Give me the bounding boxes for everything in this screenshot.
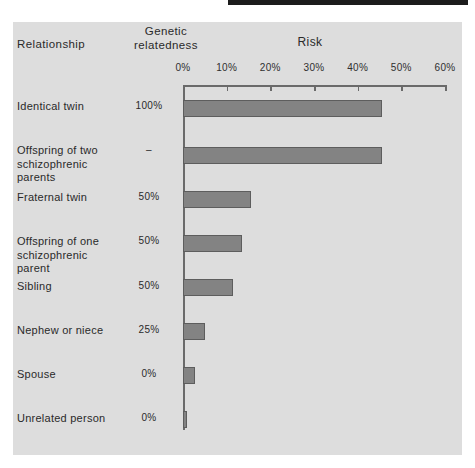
row-label-line: Offspring of two — [17, 144, 117, 158]
x-axis-tick-label: 50% — [381, 62, 421, 73]
row-value-genetic-relatedness: 50% — [118, 191, 180, 202]
x-axis-tick-label: 30% — [294, 62, 334, 73]
row-label-relationship: Identical twin — [17, 100, 117, 114]
chart-row: Nephew or niece25% — [0, 324, 449, 368]
x-axis-tick-label: 0% — [163, 62, 203, 73]
genetic-header-line-1: Genetic — [118, 24, 214, 38]
x-axis-tick — [445, 85, 447, 91]
column-header-relationship: Relationship — [17, 38, 85, 50]
row-label-line: Offspring of one — [17, 235, 117, 249]
row-value-genetic-relatedness: 100% — [118, 100, 180, 111]
x-axis-tick-label: 40% — [338, 62, 378, 73]
row-label-relationship: Sibling — [17, 280, 117, 294]
row-label-line: Identical twin — [17, 100, 117, 114]
row-label-line: Sibling — [17, 280, 117, 294]
row-label-line: Spouse — [17, 368, 117, 382]
row-value-genetic-relatedness: 0% — [118, 368, 180, 379]
column-header-genetic-relatedness: Genetic relatedness — [118, 24, 214, 52]
x-axis-tick — [358, 85, 360, 91]
genetic-header-line-2: relatedness — [118, 38, 214, 52]
row-label-relationship: Nephew or niece — [17, 324, 117, 338]
x-axis-tick — [227, 85, 229, 91]
row-label-line: schizophrenic parent — [17, 249, 117, 276]
bar-risk — [183, 147, 382, 164]
bar-risk — [183, 191, 251, 208]
x-axis-tick-label: 10% — [207, 62, 247, 73]
row-value-genetic-relatedness: 25% — [118, 324, 180, 335]
top-black-rule — [228, 0, 468, 5]
bar-risk — [183, 279, 233, 296]
x-axis-tick — [401, 85, 403, 91]
row-label-relationship: Unrelated person — [17, 412, 117, 426]
bar-risk — [183, 367, 195, 384]
row-label-line: Fraternal twin — [17, 191, 117, 205]
x-axis-tick-label: 20% — [250, 62, 290, 73]
column-header-risk: Risk — [278, 35, 342, 49]
row-label-relationship: Spouse — [17, 368, 117, 382]
chart-row: Spouse0% — [0, 368, 449, 412]
bar-risk — [183, 411, 187, 428]
x-axis-tick — [183, 85, 185, 91]
row-label-relationship: Offspring of twoschizophrenic parents — [17, 144, 117, 185]
figure-stage: Relationship Genetic relatedness Risk 0%… — [0, 0, 475, 468]
x-axis-tick — [314, 85, 316, 91]
row-label-line: schizophrenic parents — [17, 158, 117, 185]
chart-row: Unrelated person0% — [0, 412, 449, 456]
row-value-genetic-relatedness: 0% — [118, 412, 180, 423]
row-value-genetic-relatedness: 50% — [118, 280, 180, 291]
row-value-genetic-relatedness: – — [118, 144, 180, 155]
row-label-relationship: Fraternal twin — [17, 191, 117, 205]
row-label-line: Nephew or niece — [17, 324, 117, 338]
bar-risk — [183, 235, 242, 252]
bar-risk — [183, 100, 382, 117]
x-axis-tick — [270, 85, 272, 91]
row-label-line: Unrelated person — [17, 412, 117, 426]
bar-risk — [183, 323, 205, 340]
x-axis-tick-label: 60% — [425, 62, 465, 73]
row-value-genetic-relatedness: 50% — [118, 235, 180, 246]
row-label-relationship: Offspring of oneschizophrenic parent — [17, 235, 117, 276]
